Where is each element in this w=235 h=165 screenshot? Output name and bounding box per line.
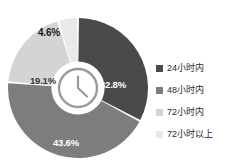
legend-swatch-icon [156,131,163,138]
donut-chart-figure: 4.6% 32.8% 43.6% 19.1% 24小时内 48小时内 72小时内… [0,0,235,165]
donut-plot-area: 4.6% 32.8% 43.6% 19.1% [8,18,148,158]
slice-label-72h: 19.1% [30,76,56,86]
slice-label-over72h: 4.6% [38,28,60,38]
chart-legend: 24小时内 48小时内 72小时内 72小时以上 [156,57,232,145]
slice-label-24h: 32.8% [100,80,126,90]
legend-swatch-icon [156,65,163,72]
slice-label-48h: 43.6% [53,138,79,148]
legend-swatch-icon [156,87,163,94]
legend-swatch-icon [156,109,163,116]
legend-item-48h[interactable]: 48小时内 [156,79,232,101]
legend-label: 72小时内 [167,108,204,117]
legend-label: 48小时内 [167,86,204,95]
legend-label: 24小时内 [167,64,204,73]
legend-item-over72h[interactable]: 72小时以上 [156,123,232,145]
legend-item-24h[interactable]: 24小时内 [156,57,232,79]
legend-item-72h[interactable]: 72小时内 [156,101,232,123]
legend-label: 72小时以上 [167,130,213,139]
